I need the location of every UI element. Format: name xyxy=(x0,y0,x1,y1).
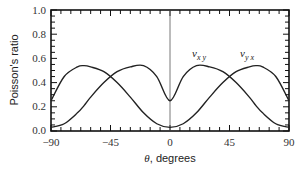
y-tick-0: 0.0 xyxy=(32,124,46,136)
x-tick-neg45: −45 xyxy=(102,136,120,148)
poisson-ratio-chart: 0.0 0.2 0.4 0.6 0.8 1.0 −90 −45 0 45 90 … xyxy=(0,0,306,170)
x-axis-title: θ, degrees xyxy=(144,152,196,164)
x-tick-neg90: −90 xyxy=(42,136,60,148)
label-nu-yx: νy x xyxy=(240,47,254,62)
y-tick-0-2: 0.2 xyxy=(32,100,46,112)
y-tick-0-6: 0.6 xyxy=(32,52,46,64)
x-tick-labels: −90 −45 0 45 90 xyxy=(42,136,295,148)
label-nu-xy: νx y xyxy=(192,47,206,62)
x-tick-0: 0 xyxy=(167,136,173,148)
x-tick-90: 90 xyxy=(284,136,296,148)
y-tick-labels: 0.0 0.2 0.4 0.6 0.8 1.0 xyxy=(32,4,46,136)
x-tick-45: 45 xyxy=(224,136,236,148)
y-axis-title: Poisson's ratio xyxy=(8,34,20,105)
y-tick-1-0: 1.0 xyxy=(32,4,46,16)
y-tick-0-8: 0.8 xyxy=(32,28,46,40)
y-tick-0-4: 0.4 xyxy=(32,76,46,88)
